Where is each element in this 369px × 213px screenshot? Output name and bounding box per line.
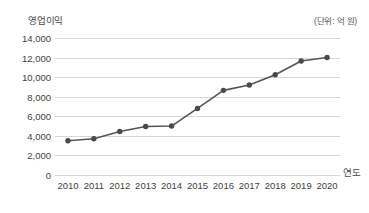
y-tick-label: 12,000 (3, 52, 51, 63)
plot-area (55, 38, 340, 175)
y-tick-label: 4,000 (3, 130, 51, 141)
x-tick-label: 2016 (213, 180, 234, 191)
y-tick-label: 0 (3, 170, 51, 181)
y-tick-label: 6,000 (3, 111, 51, 122)
x-tick-label: 2015 (187, 180, 208, 191)
data-point-marker (143, 124, 148, 129)
series-polyline (68, 58, 327, 141)
operating-profit-line-chart: 영업이익 (단위: 억 원) 14,00012,00010,0008,0006,… (0, 0, 369, 213)
data-point-marker (117, 129, 122, 134)
x-tick-label: 2014 (161, 180, 182, 191)
data-point-marker (91, 136, 96, 141)
x-tick-label: 2017 (239, 180, 260, 191)
x-tick-label: 2012 (109, 180, 130, 191)
data-point-marker (169, 123, 174, 128)
x-axis-tick-labels: 2010201120122013201420152016201720182019… (55, 180, 340, 196)
x-tick-label: 2013 (135, 180, 156, 191)
series-markers (65, 55, 329, 144)
x-tick-label: 2010 (57, 180, 78, 191)
y-tick-label: 10,000 (3, 72, 51, 83)
gridline (55, 175, 340, 176)
data-point-marker (298, 58, 303, 63)
series-line-operating-profit (55, 38, 340, 175)
data-point-marker (324, 55, 329, 60)
unit-note: (단위: 억 원) (314, 14, 357, 26)
data-point-marker (273, 72, 278, 77)
data-point-marker (247, 82, 252, 87)
x-tick-label: 2020 (316, 180, 337, 191)
data-point-marker (221, 88, 226, 93)
x-tick-label: 2019 (291, 180, 312, 191)
y-tick-label: 2,000 (3, 150, 51, 161)
data-point-marker (195, 106, 200, 111)
y-tick-label: 14,000 (3, 33, 51, 44)
y-tick-label: 8,000 (3, 91, 51, 102)
x-tick-label: 2011 (84, 180, 104, 191)
data-point-marker (65, 138, 70, 143)
x-axis-title: 연도 (343, 165, 361, 179)
y-axis-title: 영업이익 (28, 13, 63, 27)
y-axis-tick-labels: 14,00012,00010,0008,0006,0004,0002,0000 (0, 38, 51, 175)
x-tick-label: 2018 (265, 180, 286, 191)
